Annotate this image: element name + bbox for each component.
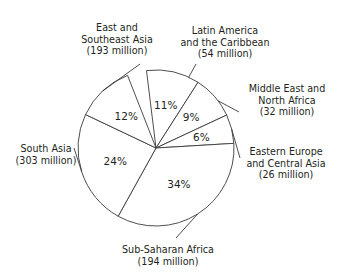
slice-percent-latin-america: 11% bbox=[154, 100, 177, 111]
category-label-eastern-europe: Eastern Europeand Central Asia(26 millio… bbox=[246, 146, 325, 181]
pie-chart: 11%9%6%34%24%12% Latin Americaand the Ca… bbox=[0, 0, 338, 279]
category-label-latin-america-line-1: Latin America bbox=[180, 25, 269, 37]
category-label-east-southeast-asia: East andSoutheast Asia(193 million) bbox=[81, 22, 153, 57]
leader-line-latin-america bbox=[189, 64, 196, 77]
category-label-eastern-europe-line-3: (26 million) bbox=[246, 169, 325, 181]
category-label-sub-saharan-africa-line-2: (194 million) bbox=[122, 256, 214, 268]
category-label-sub-saharan-africa: Sub-Saharan Africa(194 million) bbox=[122, 244, 214, 267]
category-label-eastern-europe-line-2: and Central Asia bbox=[246, 157, 325, 169]
category-label-south-asia: South Asia(303 million) bbox=[16, 143, 77, 166]
category-label-south-asia-line-2: (303 million) bbox=[16, 155, 77, 167]
category-label-middle-east: Middle East andNorth Africa(32 million) bbox=[249, 83, 326, 118]
category-label-south-asia-line-1: South Asia bbox=[16, 143, 77, 155]
category-label-middle-east-line-2: North Africa bbox=[249, 94, 326, 106]
category-label-east-southeast-asia-line-1: East and bbox=[81, 22, 153, 34]
slice-percent-sub-saharan-africa: 34% bbox=[167, 179, 190, 190]
category-label-latin-america-line-2: and the Caribbean bbox=[180, 36, 269, 48]
category-label-latin-america-line-3: (54 million) bbox=[180, 48, 269, 60]
slice-percent-middle-east: 9% bbox=[183, 112, 200, 123]
pie-slices bbox=[78, 70, 234, 226]
slice-percent-eastern-europe: 6% bbox=[193, 131, 210, 142]
category-label-east-southeast-asia-line-2: Southeast Asia bbox=[81, 33, 153, 45]
category-label-middle-east-line-3: (32 million) bbox=[249, 106, 326, 118]
category-label-sub-saharan-africa-line-1: Sub-Saharan Africa bbox=[122, 244, 214, 256]
slice-percent-east-southeast-asia: 12% bbox=[115, 111, 138, 122]
category-label-latin-america: Latin Americaand the Caribbean(54 millio… bbox=[180, 25, 269, 60]
category-label-east-southeast-asia-line-3: (193 million) bbox=[81, 45, 153, 57]
pie-chart-canvas bbox=[0, 0, 338, 279]
category-label-eastern-europe-line-1: Eastern Europe bbox=[246, 146, 325, 158]
category-label-middle-east-line-1: Middle East and bbox=[249, 83, 326, 95]
slice-percent-south-asia: 24% bbox=[104, 156, 127, 167]
